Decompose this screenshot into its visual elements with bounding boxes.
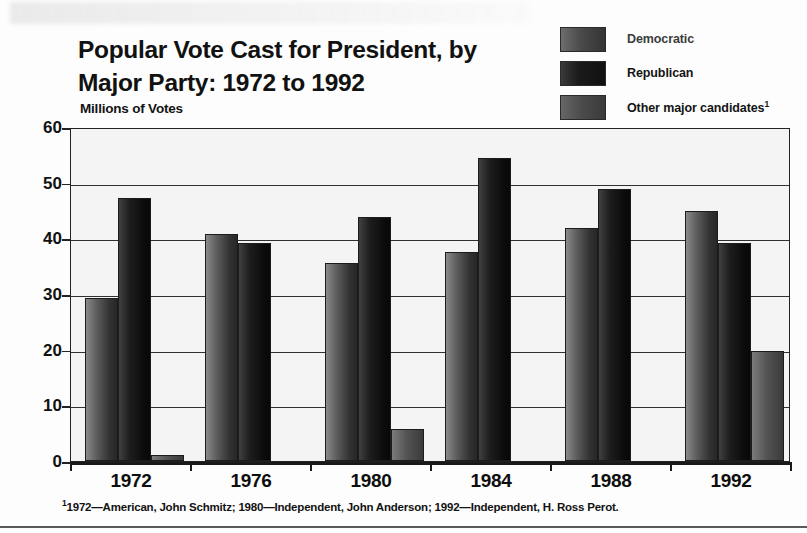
chart-legend: Democratic Republican Other major candid… [560,22,769,124]
dem-swatch-icon [560,27,606,52]
bar-1984-rep [478,158,511,461]
bar-1980-rep [358,217,391,461]
x-axis-tick-mark [550,462,552,471]
y-axis-tick-mark [62,351,70,353]
y-axis-tick-mark [62,406,70,408]
x-axis-label-1972: 1972 [110,470,151,492]
other-swatch-icon [560,95,606,120]
title-line-1: Popular Vote Cast for President, by [78,33,538,66]
x-axis-label-1992: 1992 [710,470,751,492]
bar-1980-oth [391,429,424,461]
y-axis-tick-mark [62,128,70,130]
bottom-divider [0,526,807,528]
x-axis-tick-mark [670,462,672,471]
rep-swatch-icon [560,61,606,86]
x-axis-tick-mark [190,462,192,471]
chart-page: Popular Vote Cast for President, by Majo… [0,0,807,533]
bar-1984-dem [445,252,478,461]
y-axis-tick-label: 20 [20,341,62,361]
y-axis-tick-label: 10 [20,396,62,416]
bar-1976-rep [238,243,271,461]
y-axis-tick-mark [62,295,70,297]
scan-artifact [10,2,530,24]
x-axis-tick-mark [430,462,432,471]
y-axis-caption: Millions of Votes [80,101,183,116]
bar-1988-rep [598,189,631,461]
y-axis-tick-mark [62,462,70,464]
bar-1992-rep [718,243,751,461]
y-axis-tick-mark [62,184,70,186]
y-axis-tick-label: 50 [20,174,62,194]
title-line-2: Major Party: 1972 to 1992 [78,66,538,99]
footnote: 11972—American, John Schmitz; 1980—Indep… [62,498,619,513]
x-axis-label-1976: 1976 [230,470,271,492]
x-axis-label-1988: 1988 [590,470,631,492]
y-axis-tick-label: 30 [20,285,62,305]
bar-1992-oth [751,351,784,461]
legend-footnote-marker: 1 [764,99,769,109]
bar-1992-dem [685,211,718,461]
page-title: Popular Vote Cast for President, by Majo… [78,33,538,99]
legend-label-other-text: Other major candidates [627,101,764,115]
x-axis-tick-mark [310,462,312,471]
legend-item-republican: Republican [560,56,769,90]
y-axis-tick-label: 0 [20,452,62,472]
bar-1980-dem [325,263,358,461]
bar-1976-dem [205,234,238,461]
bar-1972-oth [151,455,184,461]
x-axis-label-1980: 1980 [350,470,391,492]
legend-label-democratic: Democratic [627,32,694,46]
bars-layer [71,129,789,461]
y-axis-tick-mark [62,239,70,241]
bar-1972-rep [118,198,151,461]
y-axis-tick-label: 60 [20,118,62,138]
plot-area [70,128,790,462]
y-axis-labels: 0102030405060 [10,128,62,462]
x-axis-tick-mark [790,462,792,471]
legend-item-democratic: Democratic [560,22,769,56]
legend-label-republican: Republican [627,66,693,80]
bar-1972-dem [85,298,118,461]
footnote-text: 1972—American, John Schmitz; 1980—Indepe… [67,501,619,513]
legend-label-other: Other major candidates1 [627,99,769,115]
y-axis-tick-label: 40 [20,229,62,249]
bar-1988-dem [565,228,598,461]
x-axis-tick-mark [70,462,72,471]
x-axis-label-1984: 1984 [470,470,511,492]
legend-item-other: Other major candidates1 [560,90,769,124]
